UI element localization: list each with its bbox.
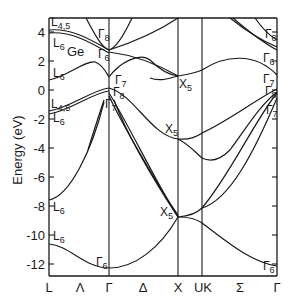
ytick-m12: -12 bbox=[26, 257, 45, 272]
y-tick-labels: 4 2 0 -2 -4 -6 -8 -10 -12 bbox=[26, 25, 45, 272]
material-label: Ge bbox=[67, 44, 84, 59]
svg-text:L6: L6 bbox=[53, 200, 65, 216]
xlabel-sigma: Σ bbox=[236, 280, 244, 295]
svg-text:Γ8: Γ8 bbox=[98, 27, 110, 43]
svg-text:Γ7: Γ7 bbox=[266, 103, 278, 119]
band-8 bbox=[109, 18, 178, 50]
xlabel-uk: UK bbox=[194, 280, 212, 295]
svg-text:Γ7: Γ7 bbox=[105, 97, 117, 113]
ytick-4: 4 bbox=[38, 25, 45, 40]
band-1 bbox=[49, 217, 178, 268]
xlabel-gamma-1: Γ bbox=[105, 280, 112, 295]
svg-text:Γ6: Γ6 bbox=[263, 51, 275, 67]
svg-text:X5: X5 bbox=[165, 122, 178, 138]
svg-text:Γ6: Γ6 bbox=[96, 255, 108, 271]
band-4-xg bbox=[178, 92, 277, 160]
xlabel-x: X bbox=[174, 280, 183, 295]
ytick-m8: -8 bbox=[33, 199, 45, 214]
ytick-2: 2 bbox=[38, 54, 45, 69]
svg-text:Γ8: Γ8 bbox=[265, 84, 277, 100]
band-split-off bbox=[88, 100, 104, 150]
band-structure-chart: 4 2 0 -2 -4 -6 -8 -10 -12 Energy (eV) L … bbox=[0, 0, 291, 308]
band-5-x-lower bbox=[150, 76, 178, 80]
band-2-gx bbox=[109, 93, 178, 217]
ytick-m4: -4 bbox=[33, 141, 45, 156]
symmetry-lines bbox=[109, 18, 202, 276]
xlabel-L: L bbox=[45, 280, 52, 295]
ytick-m6: -6 bbox=[33, 170, 45, 185]
svg-text:L6: L6 bbox=[53, 111, 65, 127]
svg-text:X5: X5 bbox=[179, 77, 192, 93]
ytick-0: 0 bbox=[38, 83, 45, 98]
xlabel-gamma-2: Γ bbox=[273, 280, 280, 295]
band-2-xg bbox=[178, 93, 277, 217]
svg-text:L6: L6 bbox=[53, 229, 65, 245]
ytick-m10: -10 bbox=[26, 228, 45, 243]
xlabel-delta: Δ bbox=[139, 280, 148, 295]
svg-text:L6: L6 bbox=[53, 66, 65, 82]
svg-text:L6: L6 bbox=[53, 36, 65, 52]
y-axis-title: Energy (eV) bbox=[10, 115, 25, 184]
xlabel-lambda: Λ bbox=[76, 280, 85, 295]
svg-text:Γ6: Γ6 bbox=[263, 259, 275, 275]
svg-text:Γ8: Γ8 bbox=[265, 27, 277, 43]
ytick-m2: -2 bbox=[33, 112, 45, 127]
x-tick-labels: L Λ Γ Δ X UK Σ Γ bbox=[45, 280, 280, 295]
